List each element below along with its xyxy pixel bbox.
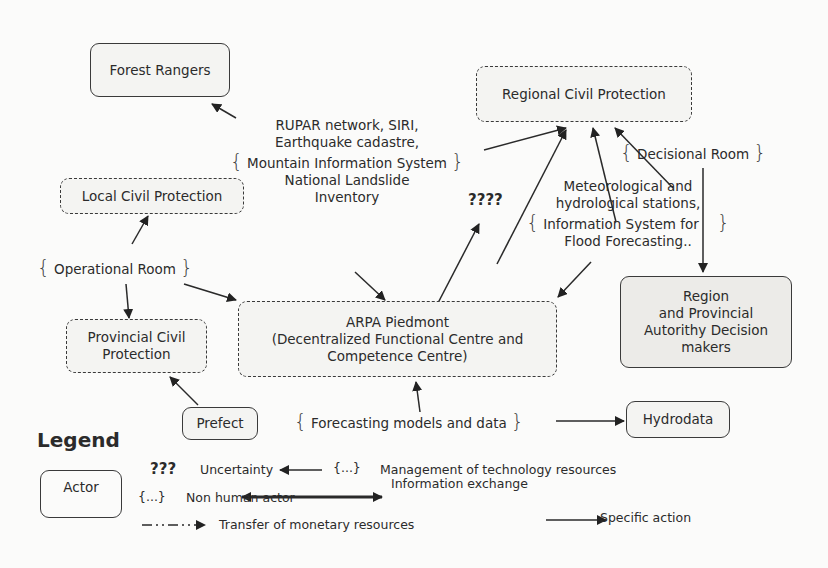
resource-line: National Landslide <box>212 172 482 189</box>
actor-label: Hydrodata <box>643 411 714 428</box>
actor-label: Protection <box>88 346 186 363</box>
resource-line: RUPAR network, SIRI, <box>212 117 482 134</box>
brace-close: } <box>451 149 464 173</box>
brace-close: } <box>511 409 524 433</box>
legend-nonhuman-label: Non human actor <box>186 490 295 505</box>
legend-actor-box: Actor <box>40 470 122 518</box>
actor-label: Autorithy Decision <box>644 322 768 339</box>
legend-uncertainty-symbol: ??? <box>150 460 176 478</box>
resource-line: Flood Forecasting.. <box>518 233 738 250</box>
legend-info-exchange-label: Information exchange <box>391 476 528 491</box>
actor-arpa-piedmont: ARPA Piedmont (Decentralized Functional … <box>238 301 557 377</box>
actor-local-civil-protection: Local Civil Protection <box>60 178 244 214</box>
legend-nonhuman-symbol: {...} <box>138 489 166 504</box>
resource-decisional-room: { Decisional Room } <box>620 142 766 163</box>
actor-label: Local Civil Protection <box>82 188 223 205</box>
brace-open: { <box>526 210 539 234</box>
actor-label: Forest Rangers <box>109 62 210 79</box>
actor-region-provincial-authority: Region and Provincial Autorithy Decision… <box>620 276 792 368</box>
resource-line: Earthquake cadastre, <box>212 134 482 151</box>
brace-open: { <box>37 255 50 279</box>
brace-close: } <box>180 255 193 279</box>
resource-rupar-network: RUPAR network, SIRI, Earthquake cadastre… <box>212 117 482 206</box>
resource-forecasting-models: { Forecasting models and data } <box>294 411 524 432</box>
legend-tech-label: Management of technology resources <box>380 462 616 477</box>
legend-actor-label: Actor <box>63 479 99 496</box>
actor-label: Provincial Civil <box>88 329 186 346</box>
resource-line: { Mountain Information System } <box>212 151 482 172</box>
resource-text: Operational Room <box>54 261 176 277</box>
actor-forest-rangers: Forest Rangers <box>90 43 230 97</box>
uncertainty-marker: ???? <box>468 192 503 209</box>
actor-label: Region <box>644 288 768 305</box>
legend-tech-symbol: {...} <box>333 460 361 475</box>
actor-hydrodata: Hydrodata <box>626 401 730 438</box>
legend-uncertainty-label: Uncertainty <box>200 462 273 477</box>
actor-provincial-civil-protection: Provincial Civil Protection <box>66 319 207 373</box>
brace-close: } <box>754 140 767 164</box>
actor-label: Regional Civil Protection <box>502 86 666 103</box>
resource-line: Inventory <box>212 189 482 206</box>
actor-prefect: Prefect <box>182 407 258 440</box>
brace-open: { <box>620 140 633 164</box>
brace-open: { <box>294 409 307 433</box>
actor-label: (Decentralized Functional Centre and <box>272 331 524 348</box>
resource-line: Meteorological and <box>518 178 738 195</box>
resource-line: { Information System for } <box>518 212 738 233</box>
legend-monetary-label: Transfer of monetary resources <box>219 517 414 532</box>
resource-line: hydrological stations, <box>518 195 738 212</box>
brace-close: } <box>717 210 730 234</box>
resource-text: Forecasting models and data <box>311 415 507 431</box>
resource-meteorological-stations: Meteorological and hydrological stations… <box>518 178 738 250</box>
actor-label: Competence Centre) <box>272 348 524 365</box>
resource-text: Mountain Information System <box>247 155 447 171</box>
actor-label: makers <box>644 339 768 356</box>
resource-text: Decisional Room <box>637 146 749 162</box>
resource-operational-room: { Operational Room } <box>37 257 193 278</box>
legend-specific-action-label: Specific action <box>600 510 691 525</box>
actor-label: and Provincial <box>644 305 768 322</box>
actor-regional-civil-protection: Regional Civil Protection <box>476 66 692 122</box>
legend-title: Legend <box>37 428 120 452</box>
actor-label: ARPA Piedmont <box>272 314 524 331</box>
resource-text: Information System for <box>543 216 699 232</box>
actor-label: Prefect <box>196 415 243 432</box>
brace-open: { <box>230 149 243 173</box>
